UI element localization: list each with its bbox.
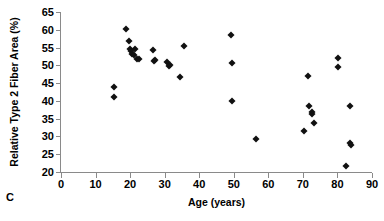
x-tick-label: 50 xyxy=(228,179,240,190)
y-tick-label: 45 xyxy=(42,78,54,89)
panel-letter: C xyxy=(6,192,14,203)
data-point xyxy=(110,94,117,101)
data-point xyxy=(305,72,312,79)
x-tick-label: 80 xyxy=(331,179,343,190)
x-tick-label: 0 xyxy=(58,179,64,190)
y-tick xyxy=(56,136,61,137)
data-point xyxy=(228,31,235,38)
x-tick-label: 70 xyxy=(297,179,309,190)
y-tick xyxy=(56,30,61,31)
y-tick-label: 60 xyxy=(42,24,54,35)
scatter-chart-figure: C Relative Type 2 Fiber Area (%) Age (ye… xyxy=(0,0,384,221)
data-point xyxy=(343,163,350,170)
x-tick-label: 20 xyxy=(124,179,136,190)
data-point xyxy=(228,60,235,67)
y-tick xyxy=(56,101,61,102)
data-point xyxy=(136,55,143,62)
data-point xyxy=(180,43,187,50)
y-axis-label-wrapper: Relative Type 2 Fiber Area (%) xyxy=(6,12,22,172)
x-tick-label: 60 xyxy=(262,179,274,190)
x-axis-line xyxy=(60,172,372,173)
x-tick-label: 30 xyxy=(159,179,171,190)
y-axis-label: Relative Type 2 Fiber Area (%) xyxy=(8,17,20,166)
y-tick xyxy=(56,154,61,155)
y-tick-label: 50 xyxy=(42,60,54,71)
y-tick-label: 65 xyxy=(42,7,54,18)
x-axis-label: Age (years) xyxy=(61,196,372,208)
x-tick-label: 40 xyxy=(193,179,205,190)
data-point xyxy=(300,127,307,134)
x-tick-label: 90 xyxy=(366,179,378,190)
data-point xyxy=(122,26,129,33)
data-point xyxy=(150,46,157,53)
data-point xyxy=(310,120,317,127)
data-point xyxy=(252,135,259,142)
x-tick-label: 10 xyxy=(89,179,101,190)
data-point xyxy=(335,64,342,71)
data-point xyxy=(229,98,236,105)
y-tick xyxy=(56,12,61,13)
y-tick-label: 35 xyxy=(42,113,54,124)
data-point xyxy=(110,83,117,90)
y-tick-label: 25 xyxy=(42,149,54,160)
y-tick xyxy=(56,119,61,120)
y-tick-label: 55 xyxy=(42,42,54,53)
data-point xyxy=(125,38,132,45)
data-point xyxy=(176,73,183,80)
y-tick xyxy=(56,83,61,84)
y-tick xyxy=(56,65,61,66)
data-point xyxy=(346,102,353,109)
y-tick xyxy=(56,48,61,49)
data-point xyxy=(334,54,341,61)
data-point xyxy=(347,142,354,149)
plot-area: 20253035404550556065 0102030405060708090 xyxy=(61,12,372,172)
y-tick-label: 40 xyxy=(42,95,54,106)
y-axis-line xyxy=(60,12,61,173)
y-tick-label: 20 xyxy=(42,167,54,178)
y-tick-label: 30 xyxy=(42,131,54,142)
